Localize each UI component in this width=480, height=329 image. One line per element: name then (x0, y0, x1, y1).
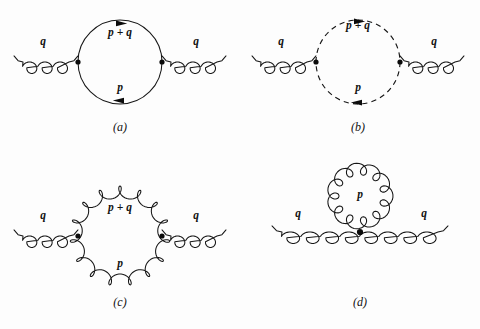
gluon-leg-left-a (14, 56, 78, 73)
panel-b: p + q p q q (b) (252, 19, 464, 134)
vertex-right-b (397, 59, 402, 64)
label-top-b: p + q (345, 19, 370, 32)
vertex-right-a (159, 59, 164, 64)
vertex-left-b (313, 59, 318, 64)
panel-d: p q q (d) (272, 163, 448, 309)
feynman-figure: p + q p q q (a) p + q p q q (b) (0, 0, 480, 329)
vertex-right-c (159, 233, 164, 238)
momentum-arrow-bottom-b (351, 100, 362, 106)
gluon-leg-left-c (14, 230, 78, 247)
caption-d: (d) (353, 295, 367, 309)
gluon-leg-right-b (400, 56, 464, 73)
label-q-right-c: q (193, 209, 199, 222)
label-top-a: p + q (107, 26, 132, 39)
vertex-left-c (75, 233, 80, 238)
label-q-left-d: q (295, 207, 301, 220)
diagram-canvas: p + q p q q (a) p + q p q q (b) (0, 0, 480, 329)
label-q-left-b: q (278, 35, 284, 48)
label-bottom-c: p (116, 257, 123, 270)
panel-c: p + q p q q (c) (14, 186, 226, 309)
gluon-leg-left-b (252, 56, 316, 73)
label-q-left-a: q (40, 35, 46, 48)
vertex-d (357, 229, 363, 235)
gluon-leg-right-c (162, 230, 226, 247)
caption-c: (c) (113, 295, 126, 309)
label-bottom-b: p (354, 81, 361, 94)
panel-a: p + q p q q (a) (14, 20, 226, 134)
label-top-d: p (356, 188, 363, 201)
vertex-left-a (75, 59, 80, 64)
caption-b: (b) (351, 120, 365, 134)
label-q-right-b: q (431, 35, 437, 48)
caption-a: (a) (113, 120, 127, 134)
momentum-arrow-bottom-a (113, 98, 124, 104)
label-q-right-a: q (193, 35, 199, 48)
label-top-c: p + q (107, 201, 132, 214)
label-q-right-d: q (421, 207, 427, 220)
label-bottom-a: p (116, 81, 123, 94)
gluon-leg-right-a (162, 56, 226, 73)
label-q-left-c: q (40, 209, 46, 222)
